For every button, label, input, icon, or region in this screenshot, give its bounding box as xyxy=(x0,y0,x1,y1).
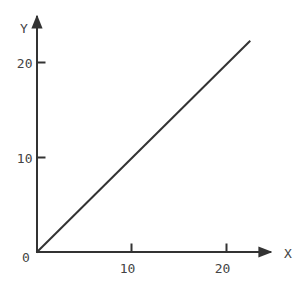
y-axis-label: Y xyxy=(20,21,28,36)
x-tick-label-20: 20 xyxy=(215,261,231,276)
y-tick-label-20: 20 xyxy=(17,56,33,71)
y-tick-label-10: 10 xyxy=(17,151,33,166)
data-line-y-equals-x xyxy=(37,41,251,253)
x-tick-label-10: 10 xyxy=(120,261,136,276)
x-axis-label: X xyxy=(284,246,292,261)
line-chart: 0 X Y 10 20 10 20 xyxy=(0,0,302,286)
origin-label: 0 xyxy=(22,250,30,265)
